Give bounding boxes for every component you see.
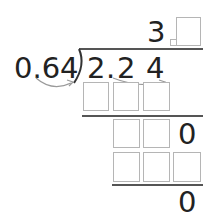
step3-box-1[interactable]	[113, 152, 140, 182]
quotient-digit: 3	[147, 18, 165, 47]
step3-box-2[interactable]	[143, 152, 170, 182]
quotient-digit-box[interactable]	[176, 17, 201, 46]
remainder: 0	[178, 188, 196, 217]
step1-box-3[interactable]	[143, 82, 170, 111]
step2-trailing-digit: 0	[178, 120, 196, 149]
division-bar	[79, 48, 203, 50]
step1-box-1[interactable]	[83, 82, 109, 111]
step1-box-2[interactable]	[113, 82, 139, 111]
step3-box-3[interactable]	[173, 152, 201, 182]
step2-box-2[interactable]	[143, 119, 170, 148]
step2-box-1[interactable]	[113, 119, 140, 148]
divisor-shift-arrow-icon	[30, 74, 90, 94]
